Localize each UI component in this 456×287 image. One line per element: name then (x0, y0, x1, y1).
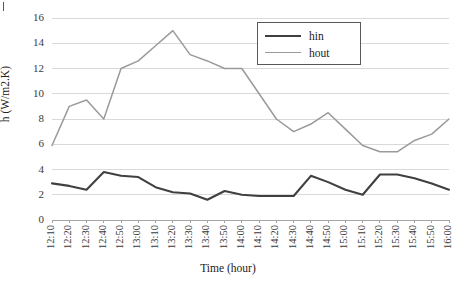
x-tick-label: 12:40 (98, 225, 109, 249)
gridlines (52, 18, 449, 220)
x-tick-label: 13:10 (150, 225, 161, 249)
series-lines (52, 31, 449, 200)
top-left-corner-mark (3, 2, 4, 11)
y-tick-label: 16 (18, 12, 44, 23)
x-tick-label: 14:10 (253, 225, 264, 249)
legend-label-hin: hin (309, 30, 324, 42)
x-tick-label: 12:10 (46, 225, 57, 249)
legend-item-hin: hin (258, 27, 360, 44)
x-tick-label: 15:00 (339, 225, 350, 249)
x-tick-label: 14:20 (270, 225, 281, 249)
x-tick-label: 13:50 (219, 225, 230, 249)
y-tick-label: 14 (18, 37, 44, 48)
x-tick-label: 14:30 (288, 225, 299, 249)
legend-label-hout: hout (309, 47, 329, 59)
y-axis-title: h (W/m2.K) (0, 66, 11, 122)
x-tick-label: 14:50 (322, 225, 333, 249)
y-tick-label: 4 (18, 164, 44, 175)
x-tick-label: 12:20 (63, 225, 74, 249)
x-tick-label: 13:00 (132, 225, 143, 249)
x-tick-label: 12:50 (115, 225, 126, 249)
legend-item-hout: hout (258, 44, 360, 61)
x-tick-label: 15:10 (357, 225, 368, 249)
y-tick-label: 2 (18, 189, 44, 200)
x-tick-label: 13:30 (184, 225, 195, 249)
legend-swatch-hout (265, 52, 301, 53)
y-tick-label: 0 (18, 214, 44, 225)
x-axis-title: Time (hour) (0, 262, 456, 274)
series-line-hout (52, 31, 449, 152)
y-tick-label: 10 (18, 88, 44, 99)
line-chart: 0246810121416 12:1012:2012:3012:4012:501… (0, 0, 456, 287)
y-tick-label: 6 (18, 138, 44, 149)
x-tick-label: 16:00 (443, 225, 454, 249)
series-line-hin (52, 172, 449, 200)
y-tick-label: 8 (18, 113, 44, 124)
x-tick-label: 15:30 (391, 225, 402, 249)
x-tick-label: 12:30 (81, 225, 92, 249)
chart-legend: hin hout (257, 22, 361, 65)
x-tick-label: 13:40 (201, 225, 212, 249)
x-tick-label: 13:20 (167, 225, 178, 249)
legend-swatch-hin (265, 35, 301, 37)
x-tick-label: 15:40 (408, 225, 419, 249)
x-tick-label: 14:00 (236, 225, 247, 249)
x-tick-label: 15:50 (426, 225, 437, 249)
x-tick-label: 14:40 (305, 225, 316, 249)
y-tick-label: 12 (18, 63, 44, 74)
x-tick-label: 15:20 (374, 225, 385, 249)
